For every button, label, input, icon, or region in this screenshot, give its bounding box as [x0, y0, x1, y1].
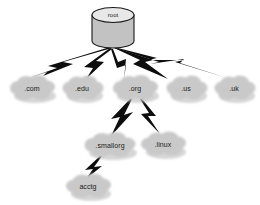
node-smallorg[interactable]: .smallorg — [85, 132, 138, 160]
node-root[interactable]: root — [92, 8, 134, 49]
node-uk[interactable]: .uk — [215, 76, 256, 104]
node-acctg[interactable]: acctg — [66, 174, 111, 202]
connector-layer — [26, 47, 227, 179]
diagram-canvas: .com .edu — [0, 0, 260, 205]
dns-hierarchy-diagram: .com .edu — [0, 0, 260, 205]
node-org[interactable]: .org — [113, 75, 159, 103]
edge-org-to-linux — [140, 99, 160, 134]
edge-root-to-org — [111, 49, 126, 79]
com-cloud-icon — [10, 75, 55, 100]
edge-root-to-uk — [114, 47, 227, 78]
edge-org-to-smallorg — [111, 99, 133, 136]
node-linux[interactable]: .linux — [141, 132, 186, 160]
node-com[interactable]: .com — [10, 75, 56, 103]
root-cylinder-top — [92, 8, 134, 23]
acctg-cloud-icon — [66, 174, 111, 198]
node-us[interactable]: .us — [167, 76, 208, 104]
edge-root-to-edu — [84, 48, 112, 79]
org-cloud-icon — [113, 75, 158, 100]
linux-cloud-icon — [141, 132, 186, 156]
node-edu[interactable]: .edu — [63, 76, 104, 104]
